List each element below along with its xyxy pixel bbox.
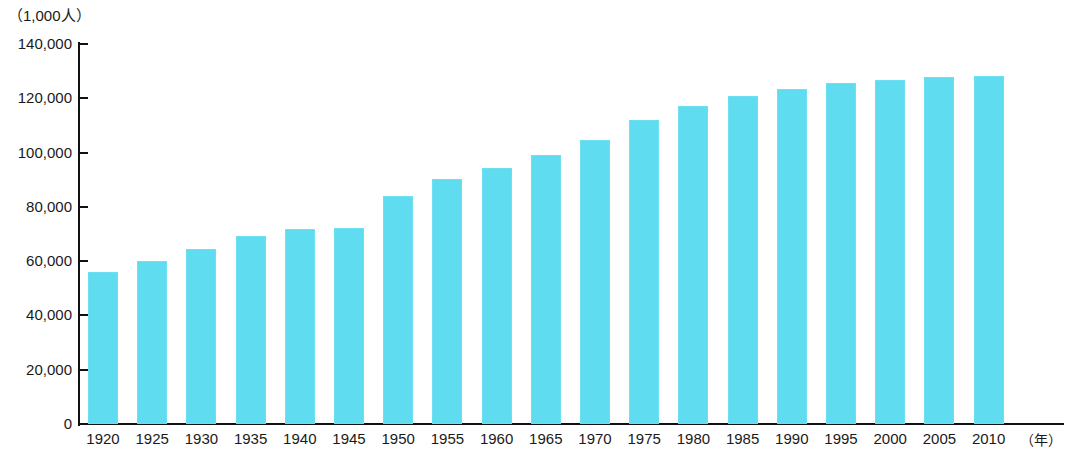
x-axis-tick-label: 1980 [671, 430, 715, 448]
x-axis-tick-label: 1995 [819, 430, 863, 448]
x-axis-tick-label: 1930 [179, 430, 223, 448]
bar [924, 77, 954, 424]
y-axis-tick-labels: 020,00040,00060,00080,000100,000120,0001… [0, 0, 72, 463]
bar [531, 155, 561, 424]
bar-series [78, 44, 1064, 424]
bar [186, 249, 216, 424]
bar [236, 236, 266, 424]
bar [629, 120, 659, 424]
x-axis-tick-label: 1920 [81, 430, 125, 448]
x-axis-tick-label: 2005 [917, 430, 961, 448]
bar [137, 261, 167, 424]
population-bar-chart: （1,000人） 020,00040,00060,00080,000100,00… [0, 0, 1070, 463]
x-axis-tick-label: 2010 [967, 430, 1011, 448]
x-axis-unit-label: （年） [1020, 431, 1062, 449]
bar [334, 228, 364, 424]
y-axis-tick-label: 120,000 [18, 90, 72, 105]
x-axis-tick-label: 1970 [573, 430, 617, 448]
bar [432, 179, 462, 424]
y-axis-tick-label: 60,000 [26, 253, 72, 268]
bar [285, 229, 315, 424]
y-axis-tick-label: 100,000 [18, 145, 72, 160]
x-axis-tick-label: 1955 [425, 430, 469, 448]
bar [875, 80, 905, 424]
y-axis-tick-label: 40,000 [26, 307, 72, 322]
x-axis-tick-label: 1950 [376, 430, 420, 448]
x-axis-tick-label: 1990 [770, 430, 814, 448]
y-axis-tick-label: 80,000 [26, 199, 72, 214]
bar [383, 196, 413, 424]
bar [482, 168, 512, 424]
x-axis-tick-label: 1960 [475, 430, 519, 448]
x-axis-tick-label: 2000 [868, 430, 912, 448]
bar [580, 140, 610, 424]
bar [826, 83, 856, 424]
y-axis-tick-label: 20,000 [26, 362, 72, 377]
bar [678, 106, 708, 424]
x-axis-tick-label: 1945 [327, 430, 371, 448]
x-axis-tick-label: 1925 [130, 430, 174, 448]
bar [88, 272, 118, 424]
x-axis-tick-label: 1935 [229, 430, 273, 448]
x-axis-tick-label: 1965 [524, 430, 568, 448]
x-axis-tick-label: 1975 [622, 430, 666, 448]
x-axis-tick-label: 1940 [278, 430, 322, 448]
y-axis-tick-label: 140,000 [18, 36, 72, 51]
bar [728, 96, 758, 424]
bar [974, 76, 1004, 424]
y-axis-tick-label: 0 [64, 416, 72, 431]
x-axis-tick-label: 1985 [721, 430, 765, 448]
bar [777, 89, 807, 424]
x-axis-tick-labels: 1920192519301935194019451950195519601965… [78, 430, 1070, 460]
